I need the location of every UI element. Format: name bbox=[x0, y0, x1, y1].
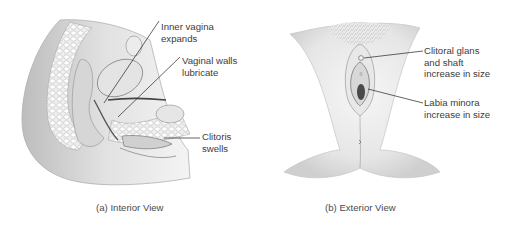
label-clitoral-glans-shaft: Clitoral glans and shaft increase in siz… bbox=[424, 45, 490, 80]
label-vaginal-walls-lubricate: Vaginal walls lubricate bbox=[182, 55, 237, 78]
panel-exterior-view: Clitoral glans and shaft increase in siz… bbox=[260, 0, 513, 226]
label-labia-minora: Labia minora increase in size bbox=[424, 97, 490, 120]
label-inner-vagina-expands: Inner vagina expands bbox=[161, 21, 214, 44]
caption-interior-view: (a) Interior View bbox=[96, 202, 164, 213]
caption-exterior-view: (b) Exterior View bbox=[325, 202, 396, 213]
label-clitoris-swells: Clitoris swells bbox=[202, 131, 231, 154]
panel-interior-view: Inner vagina expands Vaginal walls lubri… bbox=[0, 0, 260, 226]
interior-anatomy-illustration bbox=[0, 0, 260, 226]
